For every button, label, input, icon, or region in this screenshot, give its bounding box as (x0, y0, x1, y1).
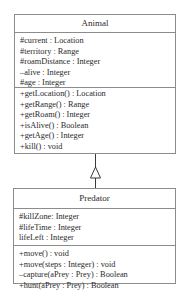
class-predator: Predator #killZone: Integer #lifeTime : … (13, 188, 176, 284)
attribute: #lifeTime : Integer (19, 223, 175, 234)
attribute: #killZone: Integer (19, 212, 175, 223)
method: +hunt(aPrey : Prey) : Boolean (19, 281, 175, 292)
class-predator-attributes: #killZone: Integer #lifeTime : Integer l… (14, 209, 175, 246)
method: –capture(aPrey : Prey) : Boolean (19, 270, 175, 281)
hollow-triangle-icon (91, 167, 101, 178)
attribute: lifeLeft : Integer (19, 233, 175, 244)
method: +move(steps : Integer) : void (19, 260, 175, 271)
method: +move() : void (19, 249, 175, 260)
class-predator-methods: +move() : void +move(steps : Integer) : … (14, 246, 175, 291)
class-predator-name: Predator (14, 189, 175, 209)
